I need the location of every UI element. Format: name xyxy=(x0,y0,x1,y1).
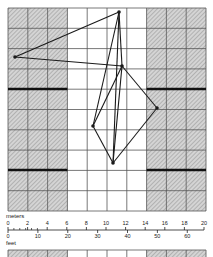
feet-tick-label: 40 xyxy=(124,233,130,239)
vertex-right xyxy=(155,106,159,110)
strip-hatch xyxy=(48,250,68,257)
strip-hatch xyxy=(28,250,48,257)
meter-tick-label: 16 xyxy=(162,220,168,226)
meter-tick-label: 12 xyxy=(123,220,129,226)
strip-hatch xyxy=(8,250,28,257)
meter-tick-label: 2 xyxy=(26,220,29,226)
strip-hatch xyxy=(147,250,167,257)
strip-hatch xyxy=(166,250,186,257)
feet-tick-label: 30 xyxy=(95,233,101,239)
feet-label: feet xyxy=(6,240,16,246)
feet-tick-label: 0 xyxy=(6,233,9,239)
meter-tick-label: 4 xyxy=(46,220,49,226)
vertex-left xyxy=(13,55,17,59)
vertex-bottom xyxy=(111,161,115,165)
meter-tick-label: 10 xyxy=(103,220,109,226)
meter-tick-label: 0 xyxy=(6,220,9,226)
feet-tick-label: 20 xyxy=(65,233,71,239)
vertex-top xyxy=(117,10,121,14)
meter-tick-label: 8 xyxy=(85,220,88,226)
bottom-strip-preview xyxy=(8,250,206,257)
meter-tick-label: 14 xyxy=(142,220,148,226)
meters-label: meters xyxy=(6,213,24,219)
feet-tick-label: 50 xyxy=(154,233,160,239)
meter-tick-label: 6 xyxy=(65,220,68,226)
figure-edge xyxy=(93,126,113,163)
feet-tick-label: 10 xyxy=(35,233,41,239)
meter-tick-label: 18 xyxy=(181,220,187,226)
figure-edge xyxy=(113,66,122,163)
meter-tick-label: 20 xyxy=(201,220,207,226)
feet-tick-label: 60 xyxy=(184,233,190,239)
vertex-mid-left xyxy=(91,124,95,128)
vertex-center xyxy=(120,64,124,68)
scale-bar: meters feet 0246810121416182001020304050… xyxy=(6,213,207,246)
site-plan-diagram: meters feet 0246810121416182001020304050… xyxy=(0,0,213,257)
figure-edge xyxy=(119,12,122,66)
strip-hatch xyxy=(186,250,206,257)
